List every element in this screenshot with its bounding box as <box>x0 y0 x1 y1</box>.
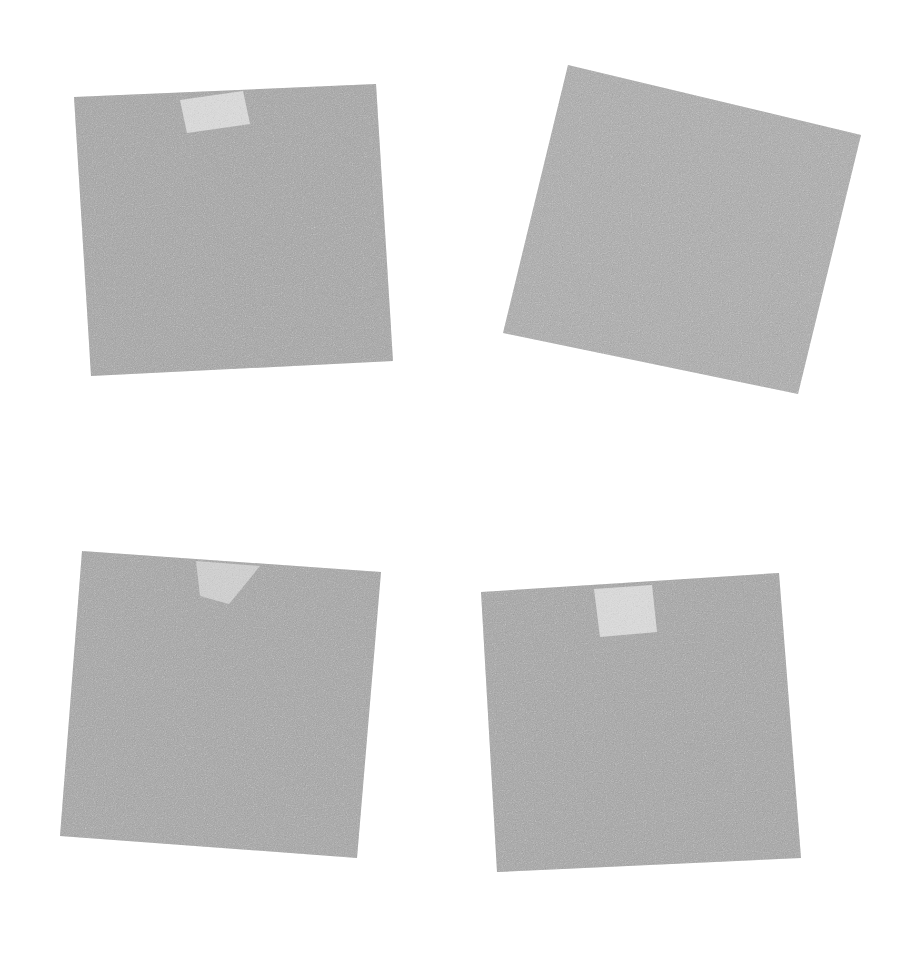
figure-canvas <box>0 0 906 959</box>
panel-bottom-left[interactable] <box>60 551 381 858</box>
panel-bottom-right[interactable] <box>481 573 801 872</box>
highlight-region-bottom-right[interactable] <box>594 585 657 637</box>
top-left-patch[interactable] <box>74 84 393 376</box>
figure-svg <box>0 0 906 959</box>
panel-top-left[interactable] <box>74 84 393 376</box>
